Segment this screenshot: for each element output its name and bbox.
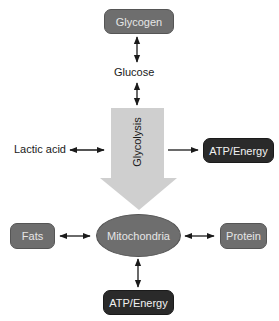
lactic-acid-label: Lactic acid xyxy=(14,143,66,155)
glucose-label: Glucose xyxy=(114,66,154,78)
mitochondria-label: Mitochondria xyxy=(107,230,170,242)
glycogen-node: Glycogen xyxy=(104,9,174,34)
atp-energy-bottom-label: ATP/Energy xyxy=(109,297,168,309)
atp-energy-bottom-node: ATP/Energy xyxy=(103,290,174,315)
protein-node: Protein xyxy=(220,223,267,249)
fats-label: Fats xyxy=(22,230,43,242)
atp-energy-right-node: ATP/Energy xyxy=(203,138,274,163)
mitochondria-node: Mitochondria xyxy=(96,214,181,257)
glycolysis-label: Glycolysis xyxy=(131,112,143,172)
fats-node: Fats xyxy=(10,223,55,249)
atp-energy-right-label: ATP/Energy xyxy=(209,145,268,157)
protein-label: Protein xyxy=(226,230,261,242)
glycogen-label: Glycogen xyxy=(116,16,162,28)
